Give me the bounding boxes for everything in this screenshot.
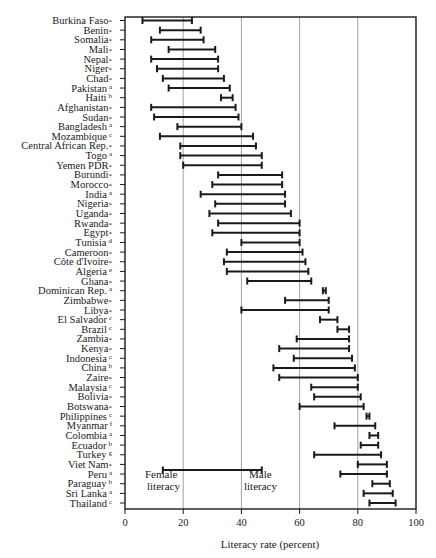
range-bar-benin (160, 27, 201, 34)
range-bar-myanmar (335, 422, 376, 429)
x-tick-label: 40 (236, 517, 247, 528)
range-bar-peru (340, 471, 387, 478)
range-bar-sudan (154, 114, 238, 121)
x-tick-label: 20 (178, 517, 189, 528)
legend-male-label-line2: literacy (244, 480, 277, 492)
range-bar-zambia (297, 335, 349, 342)
range-bar-el-salvador (320, 316, 337, 323)
range-bar-afghanistan (151, 104, 235, 111)
x-tick-label: 80 (353, 517, 364, 528)
range-bar-niger (157, 65, 218, 72)
range-bar-yemen-pdr (183, 162, 262, 169)
legend-male-label-line1: Male (249, 468, 272, 480)
legend-female-label-line1: Female (145, 468, 177, 480)
range-bar-nigeria (215, 200, 285, 207)
range-bar-morocco (212, 181, 282, 188)
range-bar-chad (163, 75, 224, 82)
legend-female-label-line2: literacy (147, 480, 180, 492)
range-bar-mali (169, 46, 216, 53)
range-bar-zimbabwe (285, 297, 329, 304)
range-bar-brazil (337, 326, 349, 333)
vertical-gridlines (183, 17, 358, 509)
range-bar-china (273, 364, 354, 371)
x-tick-label: 60 (294, 517, 305, 528)
x-axis-title: Literacy rate (percent) (221, 538, 320, 551)
range-bar-pakistan (169, 85, 230, 92)
range-bar-malaysia (311, 384, 358, 391)
x-axis: 020406080100 (122, 509, 424, 528)
range-bar-bolivia (314, 393, 361, 400)
range-bar-mozambique (160, 133, 253, 140)
range-bar-indonesia (294, 355, 352, 362)
range-bar-c-te-d-ivoire (224, 258, 305, 265)
x-tick-label: 0 (122, 517, 127, 528)
range-bar-botswana (300, 403, 364, 410)
range-bar-cameroon (227, 249, 303, 256)
range-bar-haiti (221, 94, 233, 101)
legend: Female literacy Male literacy (145, 467, 277, 493)
range-bar-uganda (209, 210, 290, 217)
range-bar-philippines (367, 413, 370, 420)
range-bar-bangladesh (177, 123, 241, 130)
range-bar-egypt (212, 229, 299, 236)
range-bar-ghana (247, 278, 311, 285)
range-bar-nepal (151, 56, 218, 63)
literacy-range-chart: Burkina Faso*Benin*Somalia*Mali*Nepal*Ni… (0, 0, 436, 558)
range-bar-paraguay (372, 480, 389, 487)
range-bar-sri-lanka (364, 490, 393, 497)
range-bar-thailand (369, 500, 395, 507)
range-bar-algeria (227, 268, 308, 275)
country-label: Thailandc (70, 498, 112, 509)
range-bar-ecuador (361, 442, 378, 449)
country-labels: Burkina Faso*Benin*Somalia*Mali*Nepal*Ni… (21, 15, 113, 509)
range-bar-kenya (279, 345, 349, 352)
range-bar-somalia (151, 36, 203, 43)
range-bar-tunisia (241, 239, 299, 246)
range-bar-colombia (369, 432, 378, 439)
range-bar-central-african-rep- (180, 142, 256, 149)
range-bar-turkey (314, 451, 381, 458)
range-bar-rwanda (218, 220, 299, 227)
range-bar-burundi (218, 171, 282, 178)
x-tick-label: 100 (408, 517, 424, 528)
range-bar-libya (241, 307, 328, 314)
range-bar-burkina-faso (142, 17, 191, 24)
range-bar-dominican-rep- (323, 287, 326, 294)
y-axis-ticks (120, 21, 125, 504)
range-bar-viet-nam (358, 461, 387, 468)
range-bar-zaire (279, 374, 358, 381)
range-bar-india (201, 191, 285, 198)
range-bar-togo (180, 152, 261, 159)
